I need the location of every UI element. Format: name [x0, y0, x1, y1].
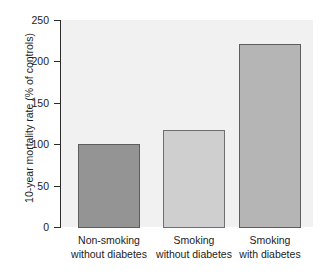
bar-non-smoking-without-diabetes	[78, 144, 140, 228]
bar-smoking-with-diabetes	[239, 44, 301, 228]
y-axis-tick-200	[54, 61, 60, 62]
y-axis-tick-150	[54, 103, 60, 104]
y-axis-tick-label-50: 50	[37, 181, 49, 191]
y-axis-line	[60, 20, 61, 228]
y-axis-tick-50	[54, 186, 60, 187]
y-axis-tick-100	[54, 144, 60, 145]
y-axis-title: 10-year mortality rate (% of controls)	[23, 13, 35, 223]
bar-smoking-without-diabetes	[163, 130, 225, 228]
x-axis-label-line-2: with diabetes	[222, 248, 318, 262]
y-axis-tick-0	[54, 227, 60, 228]
y-axis-tick-label-0: 0	[43, 222, 49, 232]
y-axis-tick-250	[54, 20, 60, 21]
bar-chart-figure: 250 200 150 100 50 0 10-year mortality r…	[0, 0, 327, 277]
x-axis-label-smoking-with-diabetes: Smoking with diabetes	[222, 234, 318, 261]
x-axis-label-line-1: Smoking	[222, 234, 318, 248]
